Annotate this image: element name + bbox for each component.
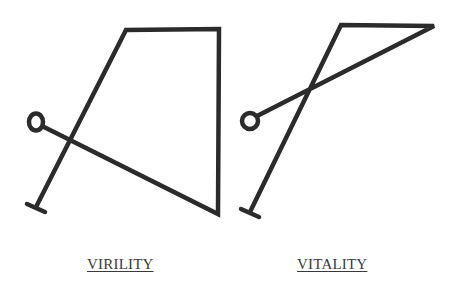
figures-canvas bbox=[0, 0, 458, 294]
vitality-main-stroke bbox=[250, 25, 434, 212]
vitality-label: VITALITY bbox=[297, 256, 367, 273]
vitality-circle-icon bbox=[242, 113, 258, 129]
symbol-diagram: VIRILITY VITALITY bbox=[0, 0, 458, 294]
virility-circle-icon bbox=[29, 114, 43, 131]
vitality-figure bbox=[241, 25, 434, 217]
virility-main-stroke bbox=[36, 29, 219, 214]
virility-label: VIRILITY bbox=[87, 256, 154, 273]
virility-figure bbox=[27, 29, 219, 214]
